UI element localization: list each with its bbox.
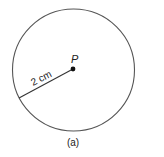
circle-diagram: P 2 cm (a)	[0, 0, 164, 157]
radius-label: 2 cm	[29, 68, 53, 88]
figure-caption: (a)	[67, 137, 79, 148]
center-label: P	[71, 53, 79, 65]
center-point	[71, 67, 76, 72]
